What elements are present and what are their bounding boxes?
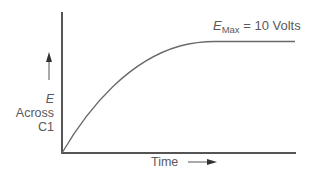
- charging-curve: [62, 42, 295, 154]
- x-axis-label: Time: [151, 155, 178, 169]
- emax-symbol: E: [213, 18, 222, 33]
- emax-subscript: Max: [222, 24, 240, 35]
- emax-annotation: EMax = 10 Volts: [213, 19, 301, 34]
- y-label-across: Across: [16, 106, 54, 120]
- charging-curve-diagram: E Across C1 Time EMax = 10 Volts: [0, 0, 312, 176]
- emax-value: 10 Volts: [254, 18, 300, 33]
- y-label-symbol: E: [46, 92, 54, 106]
- y-axis-arrow-icon: [46, 52, 52, 80]
- y-label-c1: C1: [38, 120, 54, 134]
- time-arrow-icon: [188, 159, 217, 165]
- emax-equals: =: [243, 18, 251, 33]
